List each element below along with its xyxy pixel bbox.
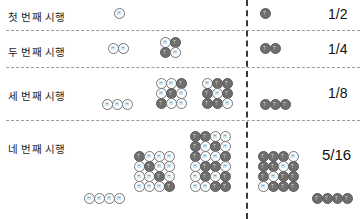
row-label-trial-4: 네 번째 시행	[8, 141, 65, 156]
fraction-trial-3: 1/8	[328, 85, 347, 101]
coin-heads: H	[144, 171, 155, 182]
coin-tails: T	[144, 161, 155, 172]
coin-row: HTTT	[258, 181, 298, 191]
coin-heads: H	[220, 131, 231, 142]
coin-group-r3-l1: HHH	[102, 99, 132, 109]
coin-tails: T	[156, 98, 167, 109]
fraction-trial-1: 1/2	[328, 6, 347, 22]
coin-tails: T	[268, 151, 279, 162]
coin-row: HTT	[202, 78, 232, 88]
row-label-trial-1: 첫 번째 시행	[8, 9, 65, 24]
coin-tails: T	[260, 43, 271, 54]
coin-tails: T	[268, 161, 279, 172]
coin-row: TTH	[202, 98, 232, 108]
coin-heads: H	[154, 161, 165, 172]
coin-heads: H	[210, 171, 221, 182]
coin-group-r1-l1: H	[114, 8, 124, 18]
coin-tails: T	[154, 171, 165, 182]
coin-heads: H	[166, 78, 177, 89]
coin-heads: H	[164, 171, 175, 182]
coin-row: HHHH	[84, 193, 124, 203]
coin-tails: T	[322, 193, 333, 204]
coin-row: HHHT	[134, 181, 174, 191]
coin-row: TT	[260, 43, 280, 53]
coin-tails: T	[202, 98, 213, 109]
coin-row: TTHH	[190, 131, 230, 141]
coin-heads: H	[200, 141, 211, 152]
coin-row: TTTH	[258, 151, 298, 161]
coin-tails: T	[210, 161, 221, 172]
coin-tails: T	[212, 78, 223, 89]
coin-tails: T	[222, 88, 233, 99]
coin-tails: T	[312, 193, 323, 204]
coin-tails: T	[270, 99, 281, 110]
coin-tails: T	[270, 43, 281, 54]
coin-row: TTTT	[312, 193, 352, 203]
coin-row: HTHH	[134, 161, 174, 171]
coin-heads: H	[156, 88, 167, 99]
coin-row: HTTH	[190, 161, 230, 171]
coin-tails: T	[160, 47, 171, 58]
coin-group-r4-l3: TTHHTHTHTHHTHTTHHTHTHHTT	[190, 131, 230, 191]
coin-tails: T	[260, 99, 271, 110]
coin-heads: H	[104, 193, 115, 204]
coin-row: THHT	[190, 151, 230, 161]
coin-tails: T	[176, 78, 187, 89]
coin-tails: T	[200, 131, 211, 142]
coin-row: TTT	[260, 99, 290, 109]
coin-tails: T	[220, 171, 231, 182]
coin-tails: T	[190, 151, 201, 162]
coin-row: THHH	[134, 151, 174, 161]
coin-heads: H	[210, 151, 221, 162]
coin-group-r2-r1: TT	[260, 43, 280, 53]
coin-heads: H	[114, 8, 125, 19]
coin-row: HHTT	[190, 181, 230, 191]
coin-row: THTH	[190, 141, 230, 151]
coin-probability-figure: 첫 번째 시행 1/2 H T 두 번째 시행 1/4 HH HTTH TT 세…	[0, 0, 364, 219]
row-label-trial-3: 세 번째 시행	[8, 88, 65, 103]
coin-tails: T	[166, 88, 177, 99]
coin-heads: H	[160, 37, 171, 48]
row-label-trial-2: 두 번째 시행	[8, 44, 65, 59]
coin-group-r2-l2: HTTH	[160, 37, 180, 57]
coin-heads: H	[170, 47, 181, 58]
coin-heads: H	[288, 151, 299, 162]
coin-group-r4-l1: HHHH	[84, 193, 124, 203]
coin-heads: H	[122, 99, 133, 110]
coin-row: H	[114, 8, 124, 18]
coin-row: HTH	[156, 88, 186, 98]
coin-tails: T	[212, 98, 223, 109]
coin-heads: H	[200, 151, 211, 162]
row-separator-1	[6, 30, 360, 31]
coin-tails: T	[288, 181, 299, 192]
coin-group-r4-r1: TTTHTTHTTHTTHTTT	[258, 151, 298, 191]
coin-tails: T	[210, 141, 221, 152]
coin-tails: T	[170, 37, 181, 48]
coin-heads: H	[212, 88, 223, 99]
coin-row: THH	[156, 98, 186, 108]
coin-heads: H	[164, 151, 175, 162]
coin-group-r3-l3: HTTTHTTTH	[202, 78, 232, 108]
coin-heads: H	[176, 88, 187, 99]
coin-row: HT	[160, 37, 180, 47]
coin-group-r3-l2: HHTHTHTHH	[156, 78, 186, 108]
coin-heads: H	[134, 161, 145, 172]
coin-row: THTT	[258, 171, 298, 181]
coin-row: TH	[160, 47, 180, 57]
coin-tails: T	[200, 161, 211, 172]
coin-heads: H	[102, 99, 113, 110]
coin-tails: T	[220, 151, 231, 162]
coin-heads: H	[190, 171, 201, 182]
coin-heads: H	[118, 43, 129, 54]
coin-heads: H	[112, 99, 123, 110]
coin-tails: T	[260, 8, 271, 19]
coin-heads: H	[144, 151, 155, 162]
coin-heads: H	[220, 161, 231, 172]
coin-heads: H	[176, 98, 187, 109]
coin-tails: T	[342, 193, 353, 204]
coin-heads: H	[210, 131, 221, 142]
coin-tails: T	[220, 181, 231, 192]
coin-group-r4-r2: TTTT	[312, 193, 352, 203]
coin-heads: H	[222, 98, 233, 109]
coin-heads: H	[166, 98, 177, 109]
